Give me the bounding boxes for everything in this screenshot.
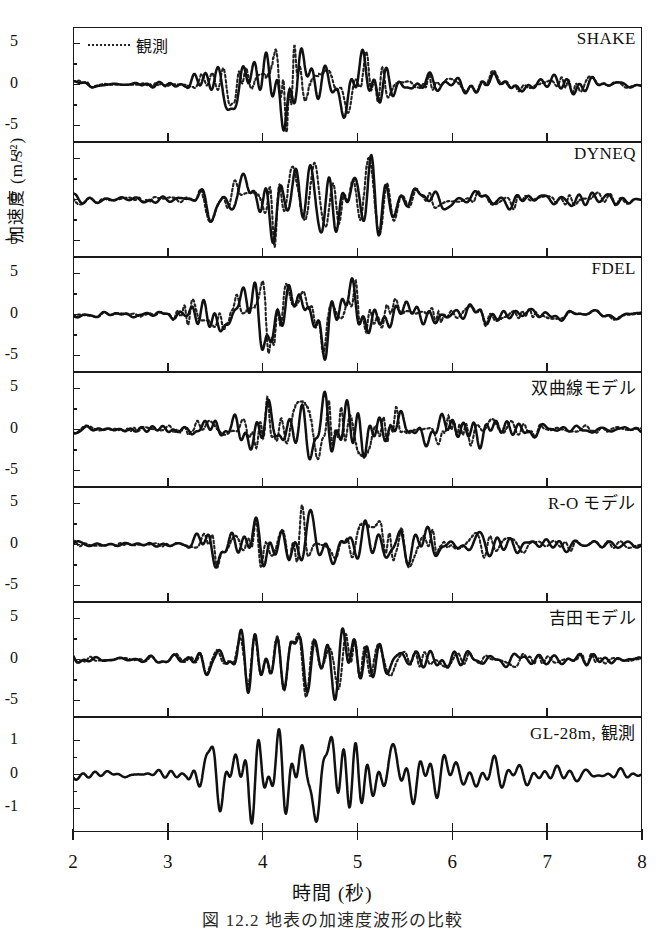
x-tick-label: 5 (338, 851, 378, 873)
y-tick-mark (73, 158, 80, 159)
y-tick-label: -5 (0, 576, 18, 592)
y-tick-label: 1 (0, 731, 18, 747)
x-minor-tick (546, 823, 547, 832)
y-tick-label: 5 (0, 493, 18, 509)
panel-label: DYNEQ (574, 144, 636, 164)
y-minor-tick (73, 408, 77, 409)
y-minor-tick (73, 564, 77, 565)
x-minor-tick (262, 133, 263, 142)
y-tick-mark (73, 544, 80, 545)
x-minor-tick (546, 248, 547, 257)
y-tick-mark (73, 240, 80, 241)
panel-label: 双曲線モデル (531, 374, 636, 399)
y-tick-mark (73, 740, 80, 741)
computed-trace (73, 510, 642, 568)
y-tick-mark (73, 388, 80, 389)
x-minor-tick (262, 248, 263, 257)
y-minor-tick (73, 219, 77, 220)
y-minor-tick (73, 638, 77, 639)
y-tick-mark (73, 808, 80, 809)
x-minor-tick (357, 823, 358, 832)
panel-5: R-O モデル (73, 487, 642, 602)
y-tick-mark (73, 429, 80, 430)
x-minor-tick (357, 133, 358, 142)
panel-label: 吉田モデル (549, 604, 637, 629)
x-tick-label: 3 (148, 851, 188, 873)
x-tick-label: 7 (527, 851, 567, 873)
y-minor-tick (73, 104, 77, 105)
x-minor-tick (452, 593, 453, 602)
x-tick-label: 2 (53, 851, 93, 873)
x-minor-tick (167, 823, 168, 832)
y-minor-tick (73, 523, 77, 524)
y-tick-label: 5 (0, 263, 18, 279)
y-minor-tick (73, 791, 77, 792)
x-minor-tick (452, 823, 453, 832)
x-tick-mark (641, 829, 642, 840)
x-minor-tick (452, 708, 453, 717)
x-minor-tick (452, 133, 453, 142)
panel-label: R-O モデル (548, 489, 636, 514)
panel-7: GL-28m, 観測 (73, 717, 642, 832)
x-minor-tick (262, 593, 263, 602)
y-tick-mark (73, 355, 80, 356)
computed-trace (73, 629, 642, 700)
panel-label: FDEL (592, 259, 637, 279)
y-tick-label: 5 (0, 378, 18, 394)
y-tick-label: -5 (0, 231, 18, 247)
x-minor-tick (262, 478, 263, 487)
x-minor-tick (357, 593, 358, 602)
x-minor-tick (167, 478, 168, 487)
y-tick-label: -1 (0, 798, 18, 814)
x-minor-tick (546, 363, 547, 372)
panel-3: FDEL (73, 257, 642, 372)
x-minor-tick (452, 363, 453, 372)
y-minor-tick (73, 334, 77, 335)
panel-4: 双曲線モデル (73, 372, 642, 487)
x-tick-mark (72, 829, 73, 840)
y-tick-label: -5 (0, 691, 18, 707)
y-tick-mark (73, 470, 80, 471)
x-minor-tick (357, 363, 358, 372)
y-minor-tick (73, 178, 77, 179)
figure-caption: 図 12.2 地表の加速度波形の比較 (0, 906, 665, 931)
x-minor-tick (546, 133, 547, 142)
y-tick-label: 0 (0, 650, 18, 666)
x-minor-tick (262, 708, 263, 717)
y-tick-label: -5 (0, 346, 18, 362)
x-tick-label: 8 (622, 851, 662, 873)
y-tick-label: 0 (0, 535, 18, 551)
observed-trace (73, 46, 642, 132)
x-minor-tick (546, 478, 547, 487)
y-tick-mark (73, 199, 80, 200)
x-minor-tick (546, 593, 547, 602)
x-tick-label: 6 (432, 851, 472, 873)
x-minor-tick (546, 708, 547, 717)
dotted-line-icon (88, 44, 130, 46)
y-tick-label: 5 (0, 608, 18, 624)
panel-6: 吉田モデル (73, 602, 642, 717)
y-tick-mark (73, 125, 80, 126)
x-minor-tick (167, 593, 168, 602)
waveform-plot (73, 142, 642, 257)
y-tick-label: 0 (0, 420, 18, 436)
y-minor-tick (73, 757, 77, 758)
x-minor-tick (167, 708, 168, 717)
observed-trace (73, 397, 642, 459)
y-tick-mark (73, 503, 80, 504)
y-minor-tick (73, 293, 77, 294)
y-minor-tick (73, 449, 77, 450)
legend-label: 観測 (136, 33, 168, 57)
legend: 観測 (88, 33, 168, 57)
x-minor-tick (262, 823, 263, 832)
y-tick-mark (73, 43, 80, 44)
panel-label: GL-28m, 観測 (530, 719, 636, 744)
y-tick-label: 0 (0, 75, 18, 91)
waveform-plot (73, 257, 642, 372)
x-minor-tick (167, 133, 168, 142)
y-tick-label: -5 (0, 116, 18, 132)
y-tick-mark (73, 774, 80, 775)
y-tick-mark (73, 273, 80, 274)
x-minor-tick (357, 708, 358, 717)
panel-2: DYNEQ (73, 142, 642, 257)
